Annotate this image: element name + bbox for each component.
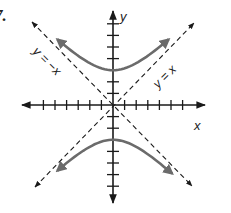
problem-number: 7. <box>0 6 7 26</box>
hyperbola-branches <box>57 39 172 173</box>
asymptote-label-pos: y = x <box>150 62 180 92</box>
asymptote-label-neg: y = −x <box>29 44 64 79</box>
lower-branch-curve <box>57 140 172 174</box>
y-axis-label: y <box>119 9 128 24</box>
x-axis-label: x <box>193 118 201 133</box>
hyperbola-plot: y x y = −x y = x <box>0 0 231 213</box>
hyperbola-figure: 7. y x y = −x y <box>0 0 231 213</box>
